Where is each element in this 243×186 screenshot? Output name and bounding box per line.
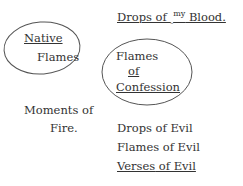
of-evil-words: of Evil — [155, 159, 196, 173]
list-item-drops: Drops of Evil — [117, 121, 193, 135]
list-item-flames: Flames of Evil — [117, 140, 200, 154]
list-item-verses: Verses of Evil — [117, 159, 196, 173]
heading-part1: Drops of — [117, 10, 170, 24]
confession-label: Confession — [116, 80, 180, 94]
verses-word: Verses — [117, 159, 155, 173]
heading-title: Drops of ‸my Blood. — [117, 7, 226, 27]
flames-label: Flames — [37, 50, 79, 64]
native-label: Native — [24, 31, 63, 45]
of-label: of — [128, 64, 139, 78]
flames-label-center: Flames — [116, 49, 158, 63]
moments-label: Moments of — [24, 103, 93, 117]
heading-part2: Blood. — [185, 10, 226, 24]
left-circle — [2, 19, 81, 76]
fire-label: Fire. — [50, 121, 78, 135]
inserted-word: my — [173, 9, 185, 18]
